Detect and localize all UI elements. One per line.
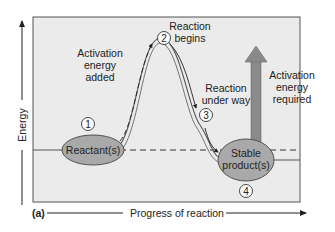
- reactant-node: Reactant(s): [62, 135, 124, 165]
- activation-required-line3: required: [273, 93, 312, 105]
- product-label-line2: product(s): [222, 159, 269, 171]
- step-3-number: 3: [203, 110, 209, 121]
- progress-axis: (a) Progress of reaction: [32, 207, 306, 219]
- step-2-number: 2: [161, 33, 167, 44]
- step-3-marker: 3: [200, 109, 213, 122]
- energy-axis: Energy: [16, 21, 28, 205]
- activation-required-line1: Activation: [269, 69, 315, 81]
- reaction-begins-line1: Reaction: [169, 20, 211, 32]
- activation-required-line2: energy: [276, 81, 309, 93]
- reactant-label: Reactant(s): [66, 144, 120, 156]
- x-axis-label: Progress of reaction: [130, 207, 224, 219]
- energy-diagram: Energy (a) Progress of reaction Reactant…: [0, 0, 335, 232]
- reaction-begins-line2: begins: [175, 32, 206, 44]
- under-way-line1: Reaction: [205, 82, 247, 94]
- step-4-number: 4: [243, 186, 249, 197]
- step-2-marker: 2: [158, 32, 171, 45]
- activation-added-line3: added: [85, 71, 114, 83]
- activation-added-line1: Activation: [77, 47, 123, 59]
- y-axis-label: Energy: [16, 108, 28, 142]
- step-4-marker: 4: [240, 185, 253, 198]
- step-1-number: 1: [85, 119, 91, 130]
- under-way-line2: under way: [202, 94, 251, 106]
- activation-added-line2: energy: [84, 59, 117, 71]
- panel-label: (a): [32, 207, 45, 219]
- product-node: Stable product(s): [218, 139, 274, 181]
- activation-energy-required-annotation: Activation energy required: [269, 69, 315, 105]
- reaction-begins-annotation: Reaction begins: [169, 20, 211, 44]
- product-label-line1: Stable: [231, 147, 261, 159]
- step-1-marker: 1: [82, 118, 95, 131]
- reaction-under-way-annotation: Reaction under way: [202, 82, 251, 106]
